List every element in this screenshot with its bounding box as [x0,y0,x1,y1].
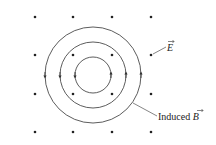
e-label-leader [153,47,166,54]
e-field-dot-grid [34,16,153,134]
field-dot [150,93,153,96]
svg-text:E: E [166,42,173,53]
e-field-label: E [166,40,174,53]
field-dot [111,131,114,134]
field-dot [34,16,37,19]
induced-b-label: Induced B [158,109,203,122]
field-dot [72,54,75,57]
field-dot [34,54,37,57]
field-dot [111,16,114,19]
field-dot [111,93,114,96]
field-dot [150,131,153,134]
direction-arrows [45,72,141,78]
field-dot [34,93,37,96]
induced-b-field-lines [45,27,141,123]
field-dot [72,93,75,96]
induced-b-field-diagram: E Induced B [0,0,216,145]
field-dot [150,16,153,19]
field-dot [34,131,37,134]
field-dot [72,131,75,134]
b-field-circle-middle [60,42,126,108]
field-dot [72,16,75,19]
field-dot [111,54,114,57]
svg-text:Induced B: Induced B [158,111,199,122]
field-dot [150,54,153,57]
induced-b-label-leader [133,103,157,116]
b-field-circle-inner [75,57,111,93]
b-field-circle-outer [45,27,141,123]
